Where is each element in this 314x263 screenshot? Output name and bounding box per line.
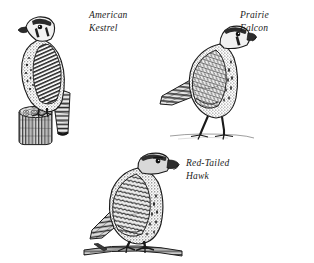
caption-american-kestrel: American Kestrel: [89, 9, 128, 34]
figure-red-tailed-hawk: [82, 152, 184, 262]
caption-line: Falcon: [240, 22, 269, 35]
falcon-body: [189, 44, 237, 118]
hawk-head: [138, 153, 179, 174]
caption-prairie-falcon: Prairie Falcon: [240, 9, 269, 34]
hawk-body: [109, 168, 162, 244]
american-kestrel-illustration: [6, 13, 92, 145]
figure-american-kestrel: [6, 13, 92, 145]
bird-plate: American Kestrel: [0, 0, 314, 263]
kestrel-body: [22, 39, 65, 112]
caption-line: Hawk: [186, 170, 229, 183]
caption-line: American: [89, 9, 128, 22]
red-tailed-hawk-illustration: [82, 152, 184, 262]
kestrel-head: [18, 17, 55, 41]
figure-prairie-falcon: [158, 22, 258, 146]
prairie-falcon-illustration: [158, 22, 258, 146]
caption-line: Red-Tailed: [186, 157, 229, 170]
caption-line: Kestrel: [89, 22, 128, 35]
falcon-legs: [191, 116, 233, 140]
caption-line: Prairie: [240, 9, 269, 22]
caption-red-tailed-hawk: Red-Tailed Hawk: [186, 157, 229, 182]
